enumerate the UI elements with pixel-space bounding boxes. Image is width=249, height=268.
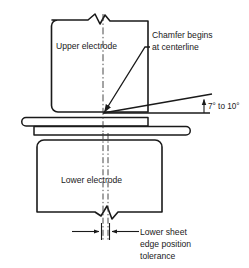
chamfer-angle-line: [103, 94, 212, 113]
chamfer-note-line1: Chamfer begins: [152, 30, 213, 40]
lower-sheet: [34, 127, 190, 136]
angle-note-label: 7° to 10°: [208, 102, 240, 111]
tolerance-note-line1: Lower sheet: [140, 227, 187, 237]
chamfer-angle-construction: 7° to 10°: [103, 94, 240, 113]
diagram-canvas: Upper electrode 7° to 10° Chamfer begins…: [0, 0, 249, 268]
lower-electrode-label: Lower electrode: [61, 175, 122, 185]
upper-electrode-outline: [52, 14, 149, 112]
tolerance-note-line3: tolerance: [140, 251, 176, 261]
leader-arrow-chamfer: [105, 47, 151, 112]
upper-electrode: Upper electrode: [52, 14, 149, 112]
lower-sheet-outline: [34, 127, 190, 136]
welding-electrode-diagram: Upper electrode 7° to 10° Chamfer begins…: [0, 0, 249, 268]
upper-sheet-outline: [22, 118, 148, 127]
tolerance-band: [103, 133, 108, 240]
chamfer-note-line2: at centerline: [152, 42, 199, 52]
tolerance-note-line2: edge position: [140, 239, 191, 249]
upper-electrode-label: Upper electrode: [56, 41, 117, 51]
upper-sheet: [22, 118, 148, 127]
lower-electrode: Lower electrode: [37, 140, 162, 219]
tolerance-dimension: Lower sheet edge position tolerance: [72, 223, 191, 261]
chamfer-callout: Chamfer begins at centerline: [105, 30, 213, 112]
